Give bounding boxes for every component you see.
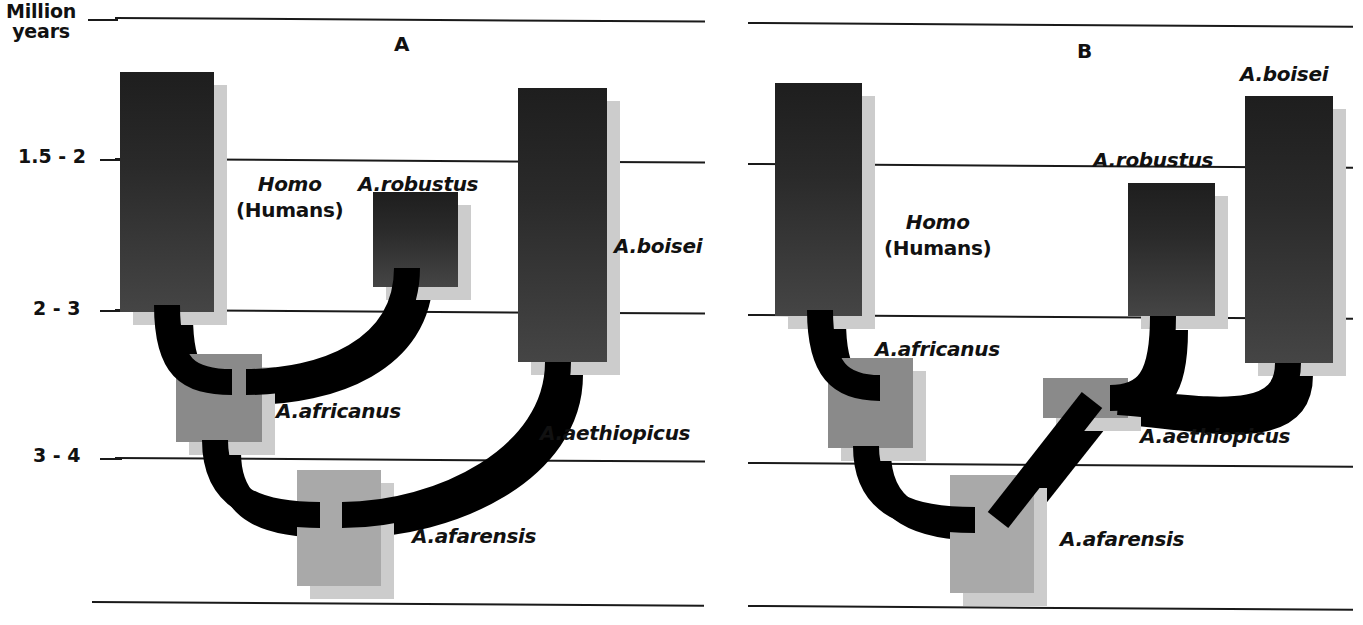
bar-face: [828, 358, 913, 448]
bar-a-homo[interactable]: [120, 72, 214, 312]
tickmark-top: [88, 19, 118, 21]
bar-face: [1043, 378, 1128, 418]
bar-face: [176, 354, 262, 442]
label-a-homo-genus: Homo: [236, 172, 343, 196]
label-a-robustus: A.robustus: [358, 172, 478, 196]
label-a-homo: Homo (Humans): [236, 172, 343, 222]
bar-b-aethiopicus[interactable]: [1043, 378, 1128, 418]
label-b-robustus: A.robustus: [1093, 148, 1213, 172]
label-b-homo-common: (Humans): [884, 236, 991, 260]
bar-a-afarensis[interactable]: [297, 470, 381, 586]
bar-face: [373, 192, 458, 287]
label-a-homo-common: (Humans): [236, 198, 343, 222]
bar-face: [297, 470, 381, 586]
label-a-aethiopicus: A.aethiopicus: [540, 421, 690, 445]
bar-b-afarensis[interactable]: [950, 475, 1034, 593]
bar-b-robustus[interactable]: [1128, 183, 1215, 316]
label-b-homo: Homo (Humans): [884, 210, 991, 260]
label-b-boisei: A.boisei: [1240, 62, 1328, 86]
label-b-africanus: A.africanus: [875, 337, 1000, 361]
tick-label-2-3: 2 - 3: [33, 297, 81, 319]
panel-letter-b: B: [1077, 39, 1092, 63]
figure-canvas: Million years 1.5 - 2 2 - 3 3 - 4: [0, 0, 1363, 625]
bar-face: [1128, 183, 1215, 316]
gridline-a-3-4: [115, 457, 705, 463]
gridline-a-top: [115, 17, 705, 23]
label-a-africanus: A.africanus: [276, 399, 401, 423]
axis-title-line2: years: [6, 22, 76, 42]
tick-label-3-4: 3 - 4: [33, 444, 81, 466]
bar-a-africanus[interactable]: [176, 354, 262, 442]
bar-b-africanus[interactable]: [828, 358, 913, 448]
bar-b-homo[interactable]: [775, 83, 862, 316]
bar-face: [120, 72, 214, 312]
bar-a-robustus[interactable]: [373, 192, 458, 287]
gridline-b-3-4: [748, 462, 1353, 468]
gridline-a-bottom: [92, 601, 704, 607]
bar-face: [950, 475, 1034, 593]
label-a-afarensis: A.afarensis: [412, 524, 536, 548]
bar-face: [775, 83, 862, 316]
panel-letter-a: A: [394, 32, 409, 56]
label-a-boisei: A.boisei: [614, 234, 702, 258]
axis-title: Million years: [6, 2, 76, 42]
bar-b-boisei[interactable]: [1245, 96, 1333, 363]
tick-label-1-5-2: 1.5 - 2: [18, 145, 86, 167]
label-b-homo-genus: Homo: [884, 210, 991, 234]
gridline-b-bottom: [748, 605, 1353, 611]
bar-a-boisei[interactable]: [518, 88, 607, 362]
axis-title-line1: Million: [6, 2, 76, 22]
gridline-b-top: [748, 22, 1353, 28]
bar-face: [1245, 96, 1333, 363]
label-b-aethiopicus: A.aethiopicus: [1140, 424, 1290, 448]
label-b-afarensis: A.afarensis: [1060, 527, 1184, 551]
bar-face: [518, 88, 607, 362]
